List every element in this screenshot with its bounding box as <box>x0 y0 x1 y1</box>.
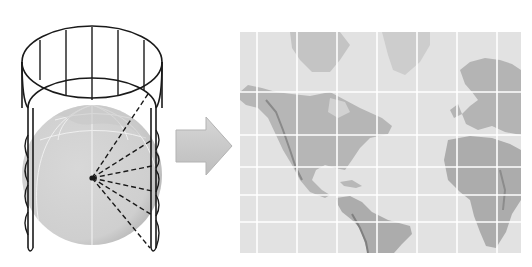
projection-diagram: Cylindrical (Mercator) projection <box>0 0 532 267</box>
projection-origin-point <box>89 175 94 180</box>
cylinder-meridians-back <box>40 27 144 100</box>
cylinder-globe-illustration <box>22 26 162 251</box>
globe <box>22 100 162 245</box>
unroll-arrow-icon <box>176 117 232 175</box>
projected-world-map <box>240 32 521 253</box>
